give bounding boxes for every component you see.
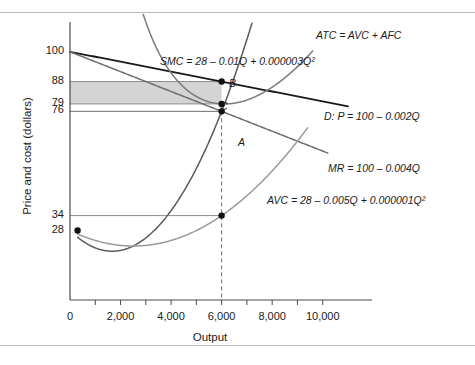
reference-lines-layer: [70, 82, 222, 300]
x-axis-title: Output: [150, 331, 270, 343]
curve-label-smc: SMC = 28 – 0.01Q + 0.000003Q²: [160, 55, 315, 67]
point-label-b: B: [229, 77, 236, 89]
y-tick-label-34: 34: [24, 208, 64, 220]
economic-profit-shaded-rect: [70, 82, 222, 104]
y-tick-label-100: 100: [24, 44, 64, 56]
y-tick-label-88: 88: [24, 74, 64, 86]
point-label-c: C: [220, 100, 228, 112]
x-tick-label-10000: 10,000: [293, 310, 353, 322]
shaded-region-layer: [70, 82, 222, 104]
y-tick-label-28: 28: [24, 223, 64, 235]
point-label-a: A: [238, 136, 245, 148]
curve-label-atc: ATC = AVC + AFC: [316, 29, 401, 41]
data-point-3: [218, 212, 224, 218]
economics-cost-curve-figure: Price and cost (dollars) Output 10088797…: [0, 0, 475, 365]
y-tick-label-76: 76: [24, 103, 64, 115]
curve-avc: [78, 128, 308, 246]
data-point-b: [218, 78, 224, 84]
curve-label-mr: MR = 100 – 0.004Q: [328, 162, 420, 174]
curve-label-d: D: P = 100 – 0.002Q: [324, 110, 420, 122]
data-point-4: [74, 227, 80, 233]
curve-label-avc: AVC = 28 – 0.005Q + 0.000001Q²: [267, 194, 425, 206]
